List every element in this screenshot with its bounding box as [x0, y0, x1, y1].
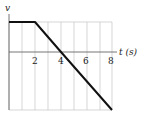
y-axis-label: v	[5, 3, 10, 13]
velocity-time-chart: v t (s) 2 4 6 8	[0, 0, 144, 116]
tick-label-4: 4	[58, 56, 64, 66]
tick-label-6: 6	[83, 56, 89, 66]
velocity-line	[9, 22, 112, 110]
grid	[9, 22, 112, 110]
x-axis-label: t (s)	[119, 47, 138, 57]
tick-label-2: 2	[32, 56, 38, 66]
tick-label-8: 8	[108, 56, 114, 66]
